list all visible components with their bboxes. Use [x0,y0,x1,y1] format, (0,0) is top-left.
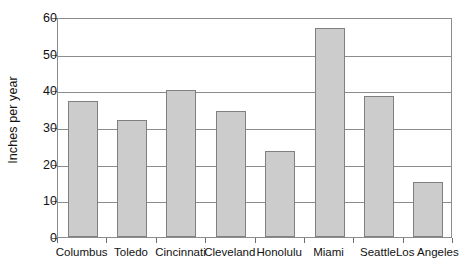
x-tick-label: Cleveland [204,246,255,259]
x-tick-label: Honolulu [256,246,301,259]
bar [413,182,443,237]
y-tick-label: 10 [11,195,57,208]
bar [265,151,295,237]
bar [166,90,196,237]
bar [68,101,98,237]
bar [315,28,345,237]
bar [216,111,246,238]
x-tick-mark [353,238,354,243]
x-tick-label: Toledo [114,246,148,259]
bar-chart: Inches per year 0102030405060 ColumbusTo… [0,0,464,270]
y-tick-label: 20 [11,158,57,171]
x-tick-mark [106,238,107,243]
y-tick-label: 60 [11,12,57,25]
x-tick-mark [255,238,256,243]
y-tick-label: 0 [11,232,57,245]
y-tick-label: 40 [11,85,57,98]
gridline [58,92,451,93]
x-tick-mark [403,238,404,243]
y-tick-label: 30 [11,122,57,135]
y-axis-ticks: 0102030405060 [0,0,57,270]
x-tick-mark [156,238,157,243]
x-tick-label: Miami [313,246,344,259]
y-tick-label: 50 [11,48,57,61]
x-tick-mark [304,238,305,243]
bar [117,120,147,237]
x-tick-mark [57,238,58,243]
bar [364,96,394,237]
x-tick-mark [452,238,453,243]
x-tick-label: Seattle [360,246,396,259]
x-tick-label: Cincinnati [155,246,206,259]
x-tick-label: Columbus [56,246,108,259]
gridline [58,56,451,57]
x-axis: ColumbusToledoCincinnatiClevelandHonolul… [57,238,452,270]
plot-area [57,18,452,238]
x-tick-mark [205,238,206,243]
x-tick-label: Los Angeles [396,246,459,259]
